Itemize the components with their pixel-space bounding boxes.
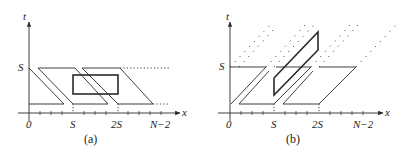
x-tick-n-2: N−2: [352, 118, 374, 130]
x-tick-2s: 2S: [111, 118, 123, 130]
t-axis-label: t: [226, 10, 230, 22]
x-tick-0: 0: [26, 118, 32, 130]
x-tick-s: S: [70, 118, 76, 130]
y-tick-label-s: S: [219, 60, 225, 72]
y-tick-label-s: S: [18, 61, 24, 73]
panel-b: [218, 22, 396, 121]
x-tick-2s: 2S: [312, 118, 324, 130]
x-axis-label: x: [181, 106, 187, 118]
highlight-rectangle: [73, 75, 118, 94]
dotted-extensions: [230, 25, 396, 67]
x-tick-s: S: [271, 118, 277, 130]
figure: t x S 0 S 2S N−2 (a): [0, 0, 413, 153]
x-tick-0: 0: [226, 118, 232, 130]
caption-b: (b): [286, 132, 300, 146]
caption-a: (a): [84, 132, 97, 146]
highlight-parallelogram: [274, 32, 318, 95]
panel-a: [18, 22, 180, 121]
x-axis-label: x: [384, 106, 390, 118]
panel-a-labels: t x S 0 S 2S N−2 (a): [18, 10, 187, 146]
panel-b-labels: t x S 0 S 2S N−2 (b): [219, 10, 390, 146]
x-tick-n-2: N−2: [149, 118, 171, 130]
t-axis-label: t: [23, 10, 27, 22]
